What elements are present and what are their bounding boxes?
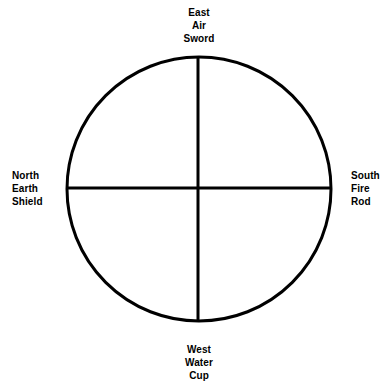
wheel-graphic	[0, 0, 388, 386]
label-top-element: Air	[139, 19, 259, 32]
label-right-direction: South	[351, 169, 380, 182]
label-left-tool: Shield	[12, 195, 43, 208]
label-right-south-fire-rod: South Fire Rod	[351, 169, 380, 208]
label-left-direction: North	[12, 169, 43, 182]
label-bottom-west-water-cup: West Water Cup	[139, 343, 259, 382]
correspondence-wheel-diagram: East Air Sword North Earth Shield South …	[0, 0, 388, 386]
label-left-element: Earth	[12, 182, 43, 195]
label-right-tool: Rod	[351, 195, 380, 208]
label-bottom-direction: West	[139, 343, 259, 356]
label-right-element: Fire	[351, 182, 380, 195]
label-bottom-tool: Cup	[139, 369, 259, 382]
label-bottom-element: Water	[139, 356, 259, 369]
label-top-tool: Sword	[139, 32, 259, 45]
label-top-direction: East	[139, 6, 259, 19]
label-top-east-air-sword: East Air Sword	[139, 6, 259, 45]
label-left-north-earth-shield: North Earth Shield	[12, 169, 43, 208]
